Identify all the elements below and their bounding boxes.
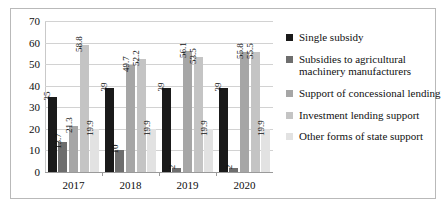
- bar-value-label: 49.7: [122, 56, 131, 72]
- x-axis-tick-label: 2017: [63, 180, 85, 191]
- bar-value-label: 55.8: [236, 43, 245, 59]
- bar[interactable]: 56.1: [183, 51, 192, 172]
- legend-swatch-icon: [286, 34, 293, 41]
- legend-label: Subsidies to agricultural machinery manu…: [299, 53, 441, 78]
- bar-value-label: 2: [225, 164, 234, 169]
- legend-label: Investment lending support: [299, 109, 419, 122]
- bar[interactable]: 39: [162, 88, 171, 172]
- bar[interactable]: 39: [105, 88, 114, 172]
- bar-group-2019: 39256.153.519.92019: [159, 21, 216, 172]
- bar-value-label: 35: [43, 91, 52, 100]
- legend-label: Support of concessional lending: [299, 87, 440, 100]
- bar-value-label: 10: [111, 145, 120, 154]
- bar[interactable]: 53.5: [194, 57, 203, 172]
- bar[interactable]: 55.5: [251, 52, 260, 172]
- legend-label: Other forms of state support: [299, 130, 423, 143]
- bar-value-label: 19.9: [143, 120, 152, 136]
- bar-value-label: 39: [157, 82, 166, 91]
- chart-legend: Single subsidySubsidies to agricultural …: [286, 31, 441, 152]
- bar-value-label: 21.3: [65, 117, 74, 133]
- x-axis-tick-mark: [102, 172, 103, 176]
- bar[interactable]: 19.9: [204, 129, 213, 172]
- y-axis-tick-label: 0: [35, 167, 41, 178]
- bar-value-label: 2: [168, 164, 177, 169]
- bar-value-label: 19.9: [257, 120, 266, 136]
- bar-group-2018: 391049.752.219.92018: [102, 21, 159, 172]
- y-axis-tick-label: 30: [29, 102, 40, 113]
- legend-item-2[interactable]: Subsidies to agricultural machinery manu…: [286, 53, 441, 78]
- bar[interactable]: 19.9: [147, 129, 156, 172]
- y-axis-tick-label: 70: [29, 16, 40, 27]
- bar[interactable]: 52.2: [137, 59, 146, 172]
- legend-item-5[interactable]: Other forms of state support: [286, 130, 441, 143]
- bar-value-label: 19.9: [200, 120, 209, 136]
- y-axis-tick-label: 50: [29, 59, 40, 70]
- legend-item-4[interactable]: Investment lending support: [286, 109, 441, 122]
- bar[interactable]: 10: [115, 150, 124, 172]
- bar[interactable]: 2: [172, 168, 181, 172]
- bar-group-2017: 3513.721.358.819.92017: [45, 21, 102, 172]
- legend-item-3[interactable]: Support of concessional lending: [286, 87, 441, 100]
- bar[interactable]: 2: [229, 168, 238, 172]
- bar-value-label: 53.5: [189, 48, 198, 64]
- x-axis-tick-mark: [159, 172, 160, 176]
- x-axis-tick-label: 2019: [177, 180, 199, 191]
- bar[interactable]: 39: [219, 88, 228, 172]
- bar[interactable]: 13.7: [58, 142, 67, 172]
- y-axis-tick-label: 10: [29, 145, 40, 156]
- bar[interactable]: 55.8: [240, 52, 249, 172]
- bar-group-2020: 39255.855.519.92020: [216, 21, 273, 172]
- x-axis-tick-label: 2018: [120, 180, 142, 191]
- x-axis-tick-label: 2020: [234, 180, 256, 191]
- plot-area: 010203040506070 3513.721.358.819.9201739…: [45, 21, 273, 173]
- bar[interactable]: 49.7: [126, 65, 135, 172]
- chart-container: 010203040506070 3513.721.358.819.9201739…: [10, 8, 436, 199]
- bar-value-label: 56.1: [179, 42, 188, 58]
- legend-swatch-icon: [286, 133, 293, 140]
- legend-item-1[interactable]: Single subsidy: [286, 31, 441, 44]
- legend-label: Single subsidy: [299, 31, 363, 44]
- legend-swatch-icon: [286, 56, 293, 63]
- bar-value-label: 58.8: [75, 36, 84, 52]
- bar-value-label: 39: [100, 82, 109, 91]
- bar[interactable]: 21.3: [69, 126, 78, 172]
- y-axis-tick-label: 40: [29, 80, 40, 91]
- y-axis-tick-label: 60: [29, 37, 40, 48]
- bar-value-label: 39: [214, 82, 223, 91]
- bar[interactable]: 58.8: [80, 45, 89, 172]
- x-axis-tick-mark: [216, 172, 217, 176]
- y-axis-tick-label: 20: [29, 123, 40, 134]
- bar-value-label: 55.5: [246, 43, 255, 59]
- legend-swatch-icon: [286, 112, 293, 119]
- bar-value-label: 52.2: [132, 51, 141, 67]
- bar[interactable]: 19.9: [261, 129, 270, 172]
- bar-value-label: 19.9: [86, 120, 95, 136]
- legend-swatch-icon: [286, 90, 293, 97]
- bar[interactable]: 19.9: [90, 129, 99, 172]
- bar-value-label: 13.7: [54, 134, 63, 150]
